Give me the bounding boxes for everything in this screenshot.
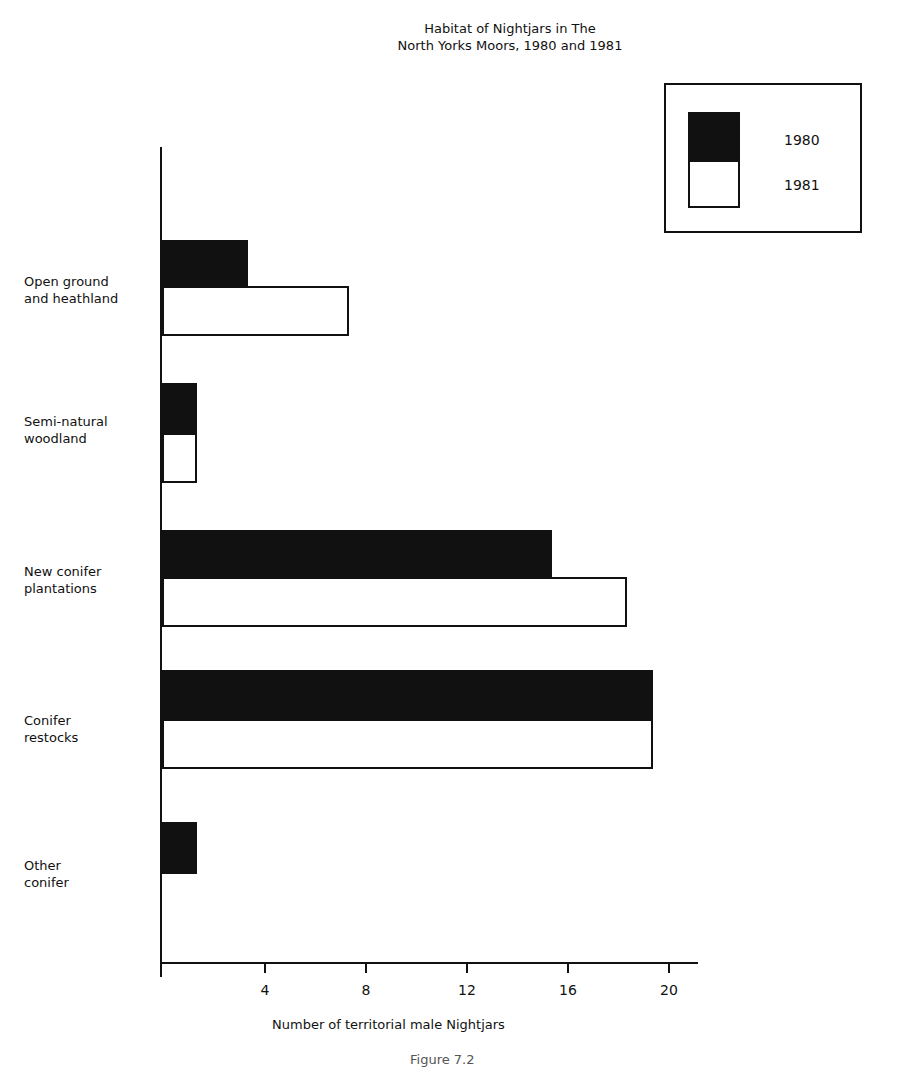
- category-label-open-ground: Open ground and heathland: [24, 273, 154, 307]
- category-label-line: Semi-natural: [24, 413, 154, 430]
- bar-1981: [162, 286, 349, 336]
- chart-title-line-2: North Yorks Moors, 1980 and 1981: [360, 37, 660, 54]
- bar-1980: [162, 530, 552, 579]
- chart-title: Habitat of Nightjars in The North Yorks …: [360, 20, 660, 54]
- bar-1981: [162, 433, 197, 483]
- bar-1980: [162, 822, 197, 874]
- legend-label-1980: 1980: [784, 132, 820, 148]
- category-label-line: plantations: [24, 580, 154, 597]
- x-tick-label: 4: [245, 982, 285, 998]
- chart-title-line-1: Habitat of Nightjars in The: [360, 20, 660, 37]
- x-axis: [160, 962, 698, 964]
- category-label-line: and heathland: [24, 290, 154, 307]
- x-tick-label: 12: [447, 982, 487, 998]
- x-tick: [466, 963, 468, 973]
- category-label-line: conifer: [24, 874, 154, 891]
- category-label-line: Open ground: [24, 273, 154, 290]
- category-label-conifer-restocks: Conifer restocks: [24, 712, 154, 746]
- legend-swatch-1981: [688, 160, 740, 208]
- category-label-line: Other: [24, 857, 154, 874]
- category-label-new-conifer: New conifer plantations: [24, 563, 154, 597]
- x-tick-label: 20: [649, 982, 689, 998]
- category-label-line: Conifer: [24, 712, 154, 729]
- x-tick: [365, 963, 367, 973]
- figure-caption: Figure 7.2: [410, 1052, 475, 1067]
- legend-swatch-1980: [688, 112, 740, 162]
- x-axis-label: Number of territorial male Nightjars: [272, 1017, 505, 1032]
- category-label-semi-natural: Semi-natural woodland: [24, 413, 154, 447]
- category-label-line: restocks: [24, 729, 154, 746]
- category-label-line: New conifer: [24, 563, 154, 580]
- x-tick: [264, 963, 266, 973]
- legend-label-1981: 1981: [784, 177, 820, 193]
- bar-1980: [162, 240, 248, 288]
- bar-1981: [162, 719, 653, 769]
- x-tick-label: 16: [548, 982, 588, 998]
- bar-1981: [162, 577, 627, 627]
- x-tick: [567, 963, 569, 973]
- category-label-other-conifer: Other conifer: [24, 857, 154, 891]
- x-tick: [668, 963, 670, 973]
- category-label-line: woodland: [24, 430, 154, 447]
- bar-1980: [162, 670, 653, 721]
- x-tick-label: 8: [346, 982, 386, 998]
- bar-1980: [162, 383, 197, 435]
- legend: 1980 1981: [664, 83, 862, 233]
